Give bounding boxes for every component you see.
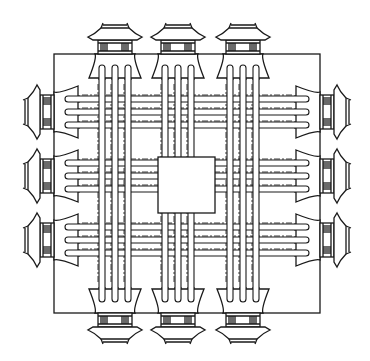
roof-ridge	[164, 23, 192, 28]
roof-ridge	[23, 226, 28, 254]
gate-roof	[28, 213, 40, 267]
road-end	[253, 65, 259, 80]
gate-roof	[334, 213, 346, 267]
gate-roof	[216, 28, 270, 40]
road-end	[294, 160, 309, 166]
road-end	[65, 250, 80, 256]
road-end	[294, 109, 309, 115]
north-south-road	[99, 66, 105, 301]
road-end	[294, 122, 309, 128]
north-gate	[216, 23, 270, 80]
roof-ridge	[101, 339, 129, 344]
east-gate	[294, 149, 351, 203]
road-end	[227, 287, 233, 302]
road-end	[125, 287, 131, 302]
north-gate	[88, 23, 142, 80]
roof-ridge	[346, 98, 351, 126]
gate-roof	[88, 28, 142, 40]
roof-ridge	[229, 23, 257, 28]
road-end	[65, 109, 80, 115]
north-gate	[151, 23, 205, 80]
west-gate	[23, 213, 80, 267]
road-end	[240, 65, 246, 80]
gate-roof	[334, 85, 346, 139]
gate-roof	[28, 85, 40, 139]
road-end	[65, 237, 80, 243]
road-end	[253, 287, 259, 302]
road-end	[294, 173, 309, 179]
roof-ridge	[346, 162, 351, 190]
road-end	[99, 287, 105, 302]
road-end	[227, 65, 233, 80]
road-end	[294, 250, 309, 256]
roof-ridge	[164, 339, 192, 344]
roof-ridge	[101, 23, 129, 28]
road-end	[294, 186, 309, 192]
south-gate	[88, 287, 142, 344]
road-end	[99, 65, 105, 80]
road-end	[125, 65, 131, 80]
road-end	[188, 287, 194, 302]
roof-ridge	[23, 162, 28, 190]
south-gate	[151, 287, 205, 344]
north-south-road	[253, 66, 259, 301]
gate-roof	[88, 327, 142, 339]
road-end	[294, 237, 309, 243]
gate-roof	[334, 149, 346, 203]
road-end	[175, 287, 181, 302]
south-gate	[216, 287, 270, 344]
palace-enclosure	[158, 157, 215, 213]
road-end	[175, 65, 181, 80]
gate-roof	[151, 28, 205, 40]
roof-ridge	[346, 226, 351, 254]
road-end	[65, 96, 80, 102]
north-south-road	[125, 66, 131, 301]
road-end	[162, 65, 168, 80]
road-end	[65, 173, 80, 179]
west-gate	[23, 149, 80, 203]
city-plan-diagram: Ideal square walled city plan with three…	[0, 0, 370, 361]
gate-roof	[28, 149, 40, 203]
road-end	[294, 96, 309, 102]
north-south-road	[227, 66, 233, 301]
road-end	[112, 287, 118, 302]
road-end	[162, 287, 168, 302]
north-south-road	[240, 66, 246, 301]
city-plan-drawing	[0, 0, 370, 361]
roof-ridge	[229, 339, 257, 344]
east-gate	[294, 213, 351, 267]
road-end	[65, 186, 80, 192]
north-south-road	[112, 66, 118, 301]
road-end	[188, 65, 194, 80]
road-end	[294, 224, 309, 230]
gate-roof	[151, 327, 205, 339]
road-end	[65, 224, 80, 230]
road-end	[240, 287, 246, 302]
roof-ridge	[23, 98, 28, 126]
road-end	[65, 160, 80, 166]
road-end	[112, 65, 118, 80]
road-end	[65, 122, 80, 128]
gate-roof	[216, 327, 270, 339]
east-gate	[294, 85, 351, 139]
west-gate	[23, 85, 80, 139]
